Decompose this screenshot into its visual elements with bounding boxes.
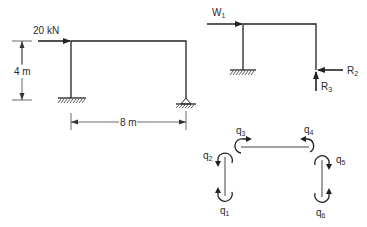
span-label: 8 m [120, 117, 137, 128]
reaction-r3-label: R3 [321, 81, 332, 93]
span-dimension: 8 m [71, 111, 186, 130]
pin-support-icon [176, 98, 196, 108]
reaction-r2-label: R2 [347, 65, 358, 77]
rotation-arrow-q3-icon [235, 139, 250, 153]
q2-label: q2 [203, 150, 213, 162]
frame-b-members [243, 24, 316, 70]
frame-b: W1 R2 R3 [207, 7, 358, 93]
structural-diagram: 20 kN 4 m 8 m [0, 0, 367, 227]
q5-label: q5 [336, 154, 346, 166]
fixed-support-icon [230, 70, 256, 75]
rotation-arrow-q4-icon [302, 139, 314, 152]
q1-label: q1 [220, 205, 230, 217]
q3-label: q3 [236, 125, 246, 137]
dof-diagram: q3 q4 q2 q1 q5 q6 [203, 124, 346, 219]
fixed-support-icon [58, 98, 86, 103]
load-w1-label: W1 [212, 7, 225, 19]
height-label: 4 m [14, 66, 31, 77]
height-dimension: 4 m [12, 41, 32, 100]
load-label: 20 kN [33, 25, 59, 36]
frame-a-members [71, 41, 186, 98]
q6-label: q6 [316, 207, 326, 219]
q4-label: q4 [304, 124, 314, 136]
frame-a: 20 kN 4 m 8 m [12, 25, 196, 130]
